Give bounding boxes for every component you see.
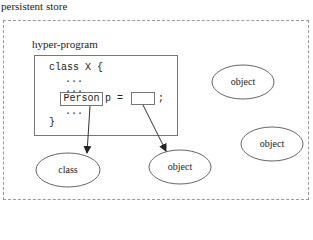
object-node-label-right: object: [242, 138, 302, 149]
arrow-slot-to-object: [143, 105, 166, 151]
class-node-label: class: [38, 164, 98, 175]
object-node-label-linked: object: [150, 161, 210, 172]
arrow-person-to-class: [87, 106, 90, 153]
object-node-label-top-right: object: [213, 76, 273, 87]
